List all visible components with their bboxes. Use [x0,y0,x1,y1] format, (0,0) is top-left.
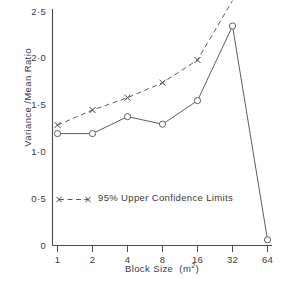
y-tick-label-0: 0 [2,240,46,251]
upper-confidence-line [58,1,233,126]
x-axis-label: Block Size (m2) [52,262,272,274]
series-upper-confidence-limits [55,1,233,129]
chart-legend: 95% Upper Confidence Limits [56,192,233,203]
variance-mean-markers [54,23,270,243]
series-variance-mean-ratio [54,23,270,243]
chart-figure: 0 0·5 1·0 1·5 2·0 2·5 1 2 4 8 16 32 64 V… [0,0,286,283]
legend-label-upper-confidence: 95% Upper Confidence Limits [98,192,233,203]
x-axis-label-main: Block Size [125,263,173,274]
y-tick-label-1: 0·5 [2,193,46,204]
y-axis-label: Variance /Mean Ratio [22,28,33,168]
x-axis-label-unit-close: ) [196,263,200,274]
x-tick-marks [58,246,268,253]
x-axis-label-unit: (m [179,263,191,274]
y-tick-label-5: 2·5 [2,6,46,17]
